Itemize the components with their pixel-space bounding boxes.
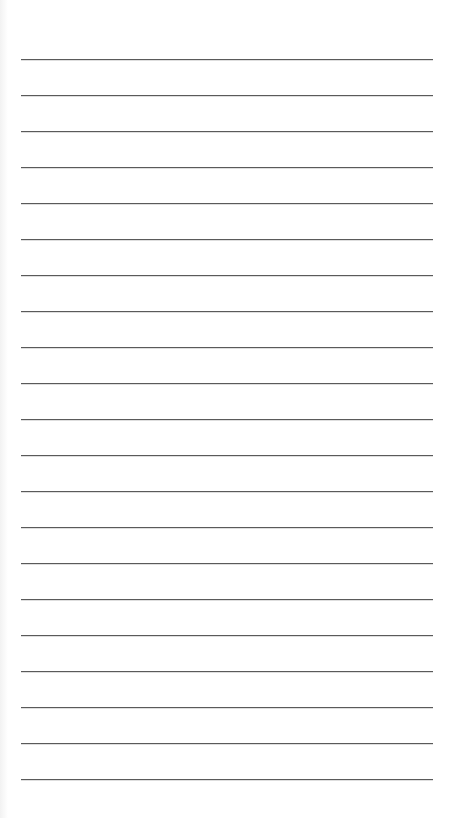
ruled-line	[21, 455, 433, 456]
ruled-line	[21, 95, 433, 96]
ruled-line	[21, 59, 433, 60]
ruled-line	[21, 635, 433, 636]
ruled-line	[21, 167, 433, 168]
ruled-line	[21, 131, 433, 132]
ruled-line	[21, 347, 433, 348]
ruled-line	[21, 779, 433, 780]
ruled-line	[21, 383, 433, 384]
ruled-line	[21, 311, 433, 312]
lined-paper-page	[0, 0, 457, 818]
ruled-line	[21, 203, 433, 204]
ruled-line	[21, 743, 433, 744]
ruled-line	[21, 599, 433, 600]
ruled-line	[21, 707, 433, 708]
ruled-line	[21, 275, 433, 276]
ruled-line	[21, 671, 433, 672]
ruled-line	[21, 563, 433, 564]
ruled-line	[21, 527, 433, 528]
ruled-line	[21, 239, 433, 240]
ruled-line	[21, 491, 433, 492]
ruled-line	[21, 419, 433, 420]
